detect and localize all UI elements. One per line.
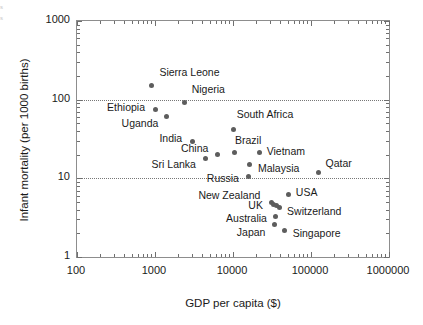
y-tick-minor-right-3 — [386, 219, 389, 220]
data-point-australia[interactable] — [273, 214, 278, 219]
x-tick-minor-top-40000 — [280, 21, 281, 24]
y-tick-minor-right-90 — [386, 103, 389, 104]
x-tick-minor-8000 — [225, 254, 226, 257]
x-tick-minor-200000 — [334, 254, 335, 257]
point-label-brazil: Brazil — [235, 135, 261, 146]
x-tick-minor-top-4000 — [202, 21, 203, 24]
x-tick-major-100000 — [311, 252, 312, 257]
point-label-usa: USA — [296, 187, 318, 198]
data-point-sierra-leone[interactable] — [149, 83, 154, 88]
x-tick-minor-600000 — [372, 254, 373, 257]
x-tick-minor-30000 — [270, 254, 271, 257]
x-tick-minor-90000 — [307, 254, 308, 257]
y-tick-label-1000: 1000 — [10, 14, 70, 25]
x-tick-minor-top-20000 — [256, 21, 257, 24]
x-tick-minor-top-800 — [147, 21, 148, 24]
y-tick-major-right-1 — [384, 257, 389, 258]
data-point-south-africa[interactable] — [231, 127, 236, 132]
x-tick-minor-500 — [132, 254, 133, 257]
data-point-uganda[interactable] — [164, 114, 169, 119]
y-tick-minor-right-2 — [386, 233, 389, 234]
x-tick-major-1000000 — [389, 252, 390, 257]
x-tick-minor-top-900000 — [385, 21, 386, 24]
x-tick-minor-top-400000 — [358, 21, 359, 24]
x-tick-label-100000: 100000 — [270, 265, 350, 276]
x-tick-minor-20000 — [256, 254, 257, 257]
x-tick-label-100: 100 — [36, 265, 116, 276]
data-point-sri-lanka[interactable] — [203, 156, 208, 161]
x-tick-minor-9000 — [229, 254, 230, 257]
y-tick-minor-right-60 — [386, 117, 389, 118]
x-tick-minor-top-200000 — [334, 21, 335, 24]
data-point-qatar[interactable] — [316, 170, 321, 175]
y-tick-minor-right-9 — [386, 182, 389, 183]
x-tick-minor-800000 — [381, 254, 382, 257]
x-tick-minor-2000 — [178, 254, 179, 257]
x-tick-minor-50000 — [288, 254, 289, 257]
y-tick-minor-right-800 — [386, 29, 389, 30]
y-tick-minor-500 — [77, 45, 80, 46]
x-tick-major-top-10000 — [233, 21, 234, 26]
data-point-ethiopia[interactable] — [153, 107, 158, 112]
point-label-switzerland: Switzerland — [287, 206, 341, 217]
x-tick-minor-40000 — [280, 254, 281, 257]
x-tick-minor-700000 — [377, 254, 378, 257]
y-tick-minor-right-8 — [386, 186, 389, 187]
x-tick-minor-top-500000 — [366, 21, 367, 24]
point-label-australia: Australia — [0, 213, 267, 224]
y-tick-minor-right-600 — [386, 38, 389, 39]
data-point-japan[interactable] — [272, 222, 277, 227]
x-tick-minor-top-5000 — [210, 21, 211, 24]
x-tick-major-top-100 — [77, 21, 78, 26]
scan-edge-artifact: s s — [0, 2, 7, 28]
x-tick-minor-900 — [151, 254, 152, 257]
x-tick-minor-70000 — [299, 254, 300, 257]
y-tick-minor-300 — [77, 62, 80, 63]
data-point-malaysia[interactable] — [247, 162, 252, 167]
x-tick-major-10000 — [233, 252, 234, 257]
x-tick-minor-80000 — [303, 254, 304, 257]
x-tick-minor-top-700000 — [377, 21, 378, 24]
x-tick-minor-top-90000 — [307, 21, 308, 24]
x-tick-minor-top-9000 — [229, 21, 230, 24]
x-tick-minor-200 — [100, 254, 101, 257]
x-tick-minor-top-7000 — [221, 21, 222, 24]
x-tick-minor-top-300 — [114, 21, 115, 24]
x-tick-label-1000000: 1000000 — [348, 265, 423, 276]
y-tick-major-right-100 — [384, 100, 389, 101]
y-tick-minor-right-30 — [386, 141, 389, 142]
point-label-china: China — [0, 143, 208, 154]
x-tick-minor-top-50000 — [288, 21, 289, 24]
x-tick-minor-400000 — [358, 254, 359, 257]
x-tick-major-top-1000 — [155, 21, 156, 26]
x-tick-minor-top-200 — [100, 21, 101, 24]
data-point-singapore[interactable] — [282, 228, 287, 233]
data-point-china[interactable] — [215, 152, 220, 157]
data-point-nigeria[interactable] — [182, 100, 187, 105]
data-point-usa[interactable] — [286, 192, 291, 197]
point-label-nigeria: Nigeria — [192, 84, 225, 95]
x-tick-major-top-100000 — [311, 21, 312, 26]
y-tick-minor-200 — [77, 76, 80, 77]
point-label-uganda: Uganda — [0, 118, 158, 129]
data-point-vietnam[interactable] — [257, 150, 262, 155]
point-label-ethiopia: Ethiopia — [0, 102, 145, 113]
x-tick-major-top-1000000 — [389, 21, 390, 26]
y-tick-minor-right-80 — [386, 107, 389, 108]
x-tick-minor-top-500 — [132, 21, 133, 24]
x-tick-minor-top-8000 — [225, 21, 226, 24]
x-tick-minor-top-60000 — [294, 21, 295, 24]
y-tick-minor-right-7 — [386, 191, 389, 192]
y-tick-minor-40 — [77, 131, 80, 132]
x-tick-minor-top-900 — [151, 21, 152, 24]
y-tick-minor-right-300 — [386, 62, 389, 63]
y-tick-minor-right-4 — [386, 210, 389, 211]
y-tick-major-100 — [77, 100, 82, 101]
x-tick-minor-7000 — [221, 254, 222, 257]
y-tick-minor-400 — [77, 52, 80, 53]
x-tick-minor-6000 — [216, 254, 217, 257]
x-tick-minor-top-6000 — [216, 21, 217, 24]
point-label-south-africa: South Africa — [237, 109, 294, 120]
x-tick-minor-top-600 — [138, 21, 139, 24]
data-point-brazil[interactable] — [232, 150, 237, 155]
